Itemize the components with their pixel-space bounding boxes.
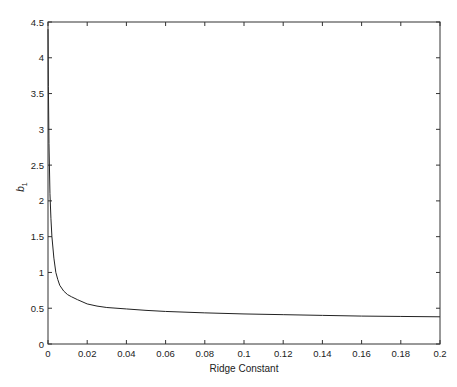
x-tick-label: 0.14 xyxy=(313,348,332,359)
x-tick-labels: 00.020.040.060.080.10.120.140.160.180.2 xyxy=(45,348,446,359)
x-tick-label: 0.16 xyxy=(352,348,371,359)
y-tick-label: 3.5 xyxy=(31,88,44,99)
y-tick-label: 2.5 xyxy=(31,160,44,171)
y-tick-label: 3 xyxy=(39,124,44,135)
x-tick-label: 0.08 xyxy=(196,348,215,359)
b1-curve xyxy=(48,29,440,317)
y-tick-label: 0 xyxy=(39,339,44,350)
x-axis-label: Ridge Constant xyxy=(210,363,279,374)
x-tick-label: 0.1 xyxy=(237,348,250,359)
y-tick-labels: 00.511.522.533.544.5 xyxy=(31,17,44,350)
y-tick-label: 4 xyxy=(39,52,44,63)
x-tick-label: 0.12 xyxy=(274,348,293,359)
plot-frame xyxy=(48,22,440,344)
x-tick-label: 0 xyxy=(45,348,50,359)
y-axis-label: b1 xyxy=(15,182,28,192)
x-tick-label: 0.18 xyxy=(392,348,411,359)
y-tick-label: 1 xyxy=(39,267,44,278)
x-tick-label: 0.02 xyxy=(78,348,97,359)
line-chart: 00.020.040.060.080.10.120.140.160.180.2 … xyxy=(0,0,457,387)
svg-text:b1: b1 xyxy=(15,182,28,192)
axis-ticks xyxy=(48,22,440,344)
y-tick-label: 1.5 xyxy=(31,231,44,242)
x-tick-label: 0.2 xyxy=(433,348,446,359)
x-tick-label: 0.06 xyxy=(156,348,175,359)
y-tick-label: 2 xyxy=(39,195,44,206)
y-tick-label: 0.5 xyxy=(31,303,44,314)
x-tick-label: 0.04 xyxy=(117,348,136,359)
y-tick-label: 4.5 xyxy=(31,17,44,28)
